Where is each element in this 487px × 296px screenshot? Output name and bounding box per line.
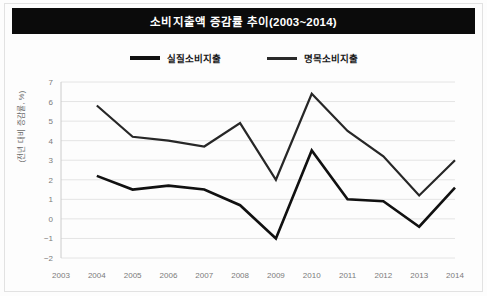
y-tick-label: 0 <box>49 215 54 224</box>
y-tick-label: −1 <box>44 234 54 243</box>
plot-svg: −2−101234567 200320042005200620072008200… <box>0 68 487 296</box>
x-tick-label: 2009 <box>267 271 285 280</box>
chart-figure: 소비지출액 증감률 추이(2003~2014) 실질소비지출 명목소비지출 (전… <box>0 0 487 296</box>
y-tick-labels: −2−101234567 <box>44 78 54 263</box>
x-tick-label: 2013 <box>410 271 428 280</box>
x-tick-label: 2010 <box>303 271 321 280</box>
line-swatch-nominal-icon <box>267 57 297 60</box>
page-title: 소비지출액 증감률 추이(2003~2014) <box>150 13 337 29</box>
x-tick-label: 2011 <box>339 271 357 280</box>
y-tick-label: 4 <box>49 137 54 146</box>
x-tick-label: 2006 <box>160 271 178 280</box>
y-tick-label: 2 <box>49 176 54 185</box>
x-tick-label: 2014 <box>446 271 464 280</box>
y-tick-label: 5 <box>49 117 54 126</box>
y-tick-label: 1 <box>49 195 54 204</box>
x-tick-label: 2003 <box>52 271 70 280</box>
x-tick-label: 2008 <box>231 271 249 280</box>
x-tick-label: 2004 <box>88 271 106 280</box>
y-tick-label: 3 <box>49 156 54 165</box>
legend-label-nominal: 명목소비지출 <box>304 51 358 65</box>
x-tick-label: 2005 <box>124 271 142 280</box>
legend-item-real[interactable]: 실질소비지출 <box>130 51 221 65</box>
y-tick-label: 7 <box>49 78 54 87</box>
chart-legend: 실질소비지출 명목소비지출 <box>0 48 487 68</box>
plot-area: −2−101234567 200320042005200620072008200… <box>0 68 487 296</box>
x-tick-label: 2007 <box>195 271 213 280</box>
line-swatch-real-icon <box>130 56 160 60</box>
y-tick-label: 6 <box>49 98 54 107</box>
series-line-real <box>97 150 455 238</box>
y-tick-label: −2 <box>44 254 54 263</box>
legend-label-real: 실질소비지출 <box>167 51 221 65</box>
chart-title-bar: 소비지출액 증감률 추이(2003~2014) <box>12 8 475 34</box>
legend-item-nominal[interactable]: 명목소비지출 <box>267 51 358 65</box>
x-tick-labels: 2003200420052006200720082009201020112012… <box>52 271 464 280</box>
x-tick-label: 2012 <box>374 271 392 280</box>
